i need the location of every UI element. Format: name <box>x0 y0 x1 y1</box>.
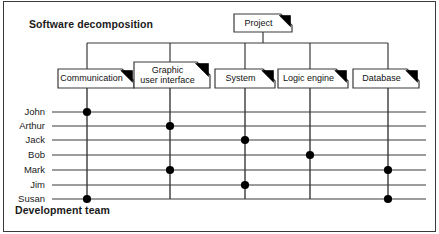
assignment-dot[interactable] <box>384 166 392 174</box>
assignment-dot[interactable] <box>83 195 91 203</box>
component-boxes-group <box>58 14 419 88</box>
diagram-canvas: Software decomposition Development team … <box>0 0 439 234</box>
assignment-dot[interactable] <box>166 166 174 174</box>
team-member-label: Jack <box>0 135 45 145</box>
component-column-lines-group <box>87 88 388 199</box>
team-member-label: Bob <box>0 150 45 160</box>
assignment-dot[interactable] <box>306 151 314 159</box>
assignment-dot[interactable] <box>241 181 249 189</box>
decomposition-tree-connectors <box>87 32 388 69</box>
team-member-label: Mark <box>0 165 45 175</box>
team-member-label: Jim <box>0 180 45 190</box>
assignment-dot[interactable] <box>166 122 174 130</box>
team-member-label: John <box>0 107 45 117</box>
diagram-graphics <box>0 0 439 234</box>
team-row-lines-group <box>52 112 426 199</box>
assignment-dot[interactable] <box>384 195 392 203</box>
team-member-label: Arthur <box>0 121 45 131</box>
team-member-label: Susan <box>0 194 45 204</box>
assignment-dot[interactable] <box>83 108 91 116</box>
assignment-dot[interactable] <box>241 136 249 144</box>
